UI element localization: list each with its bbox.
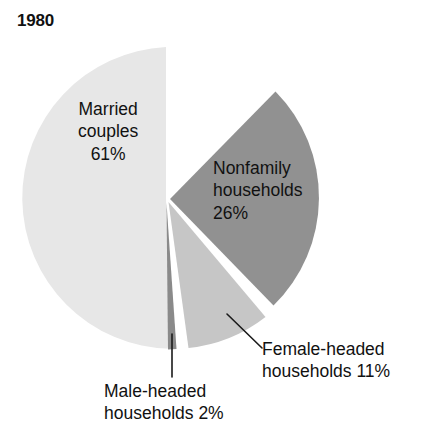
slice-label-male: Male-headed households 2% [104, 380, 224, 425]
slice-label-married-value: 61% [78, 143, 138, 165]
slice-label-nonfamily-line2: households [213, 179, 303, 201]
pie-chart: 1980 Married couples 61% Nonfamily house… [0, 0, 427, 432]
slice-label-nonfamily-line1: Nonfamily [213, 157, 303, 179]
slice-label-nonfamily-value: 26% [213, 202, 303, 224]
slice-label-married: Married couples 61% [78, 98, 138, 165]
slice-label-female-line2: households 11% [262, 360, 390, 382]
slice-label-male-line1: Male-headed [104, 380, 224, 402]
slice-label-female-line1: Female-headed [262, 338, 390, 360]
slice-label-male-line2: households 2% [104, 402, 224, 424]
slice-label-female: Female-headed households 11% [262, 338, 390, 383]
slice-label-nonfamily: Nonfamily households 26% [213, 157, 303, 224]
pie-slice-married[interactable] [22, 47, 170, 349]
slice-label-married-line1: Married [78, 98, 138, 120]
slice-label-married-line2: couples [78, 120, 138, 142]
